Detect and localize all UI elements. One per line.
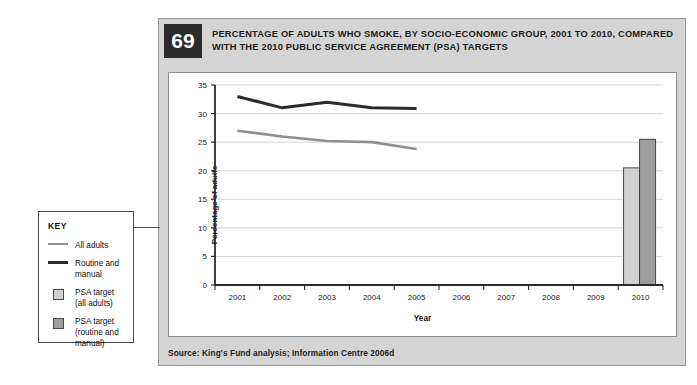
line-series-group [237,96,416,149]
figure-title-bar: 69 PERCENTAGE OF ADULTS WHO SMOKE, BY SO… [159,19,685,67]
legend-entry-label: Routine and manual [75,258,125,280]
legend-title: KEY [48,221,125,231]
legend-entry: PSA target (all adults) [48,287,125,309]
legend-line-swatch [48,261,68,264]
legend-entry: All adults [48,240,125,251]
legend-rect-swatch [48,319,68,329]
legend-entry-label: PSA target (routine and manual) [75,316,125,349]
legend-swatch-mark [48,261,68,264]
page-title: PERCENTAGE OF ADULTS WHO SMOKE, BY SOCIO… [212,28,675,55]
axis-lines [211,85,663,285]
line-routine-and-manual [237,96,416,108]
legend-line-swatch [48,243,68,245]
legend-rect-swatch [48,290,68,300]
figure-number-badge: 69 [164,24,202,58]
legend-entries: All adultsRoutine and manualPSA target (… [48,240,125,350]
legend-swatch-mark [53,318,64,329]
figure-panel: 69 PERCENTAGE OF ADULTS WHO SMOKE, BY SO… [158,18,686,366]
legend-entry: Routine and manual [48,258,125,280]
plot-area: Percentage of adults 05101520253035 2001… [169,73,676,336]
legend-entry-label: PSA target (all adults) [75,287,125,309]
chart-legend: KEY All adultsRoutine and manualPSA targ… [38,211,134,343]
bar-series-group [624,139,656,285]
chart-plate: Percentage of adults 05101520253035 2001… [168,72,677,337]
legend-swatch-mark [53,289,64,300]
line-all-adults [237,131,416,149]
source-note: Source: King's Fund analysis; Informatio… [168,348,677,358]
legend-entry-label: All adults [75,240,108,251]
bar-psa-target-all-adults- [624,168,640,285]
legend-entry: PSA target (routine and manual) [48,316,125,349]
bar-psa-target-routine-and-manual- [640,139,656,285]
legend-swatch-mark [48,243,68,245]
key-connector-line [134,227,160,228]
chart-canvas [169,73,678,338]
gridlines [215,85,663,256]
